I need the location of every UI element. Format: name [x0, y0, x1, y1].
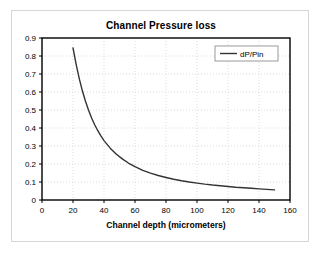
x-tick-label: 40	[100, 206, 109, 215]
y-tick-label: 0.3	[25, 142, 37, 151]
y-tick-label: 0.2	[25, 160, 37, 169]
chart-frame: Channel Pressure loss 00.10.20.30.40.50.…	[11, 10, 309, 242]
y-tick-label: 0.5	[25, 106, 37, 115]
x-tick-label: 0	[40, 206, 45, 215]
gridlines	[42, 38, 290, 200]
legend[interactable]: dP/Pin	[215, 46, 278, 61]
y-tick-label: 0.6	[25, 88, 37, 97]
y-tick-label: 0	[32, 196, 37, 205]
y-axis-ticks: 00.10.20.30.40.50.60.70.80.9	[25, 34, 42, 205]
legend-label-dp-pin: dP/Pin	[240, 50, 264, 59]
x-tick-label: 120	[221, 206, 235, 215]
chart-plot-area: 00.10.20.30.40.50.60.70.80.9 02040608010…	[12, 11, 310, 243]
series-line-dp-pin	[73, 48, 275, 190]
y-tick-label: 0.9	[25, 34, 37, 43]
x-tick-label: 160	[283, 206, 297, 215]
y-tick-label: 0.4	[25, 124, 37, 133]
x-tick-label: 60	[131, 206, 140, 215]
x-tick-label: 20	[69, 206, 78, 215]
x-axis-title: Channel depth (micrometers)	[106, 220, 226, 230]
x-tick-label: 100	[190, 206, 204, 215]
x-tick-label: 140	[252, 206, 266, 215]
y-tick-label: 0.7	[25, 70, 37, 79]
x-tick-label: 80	[162, 206, 171, 215]
y-tick-label: 0.1	[25, 178, 37, 187]
y-tick-label: 0.8	[25, 52, 37, 61]
x-axis-ticks: 020406080100120140160	[40, 200, 297, 215]
